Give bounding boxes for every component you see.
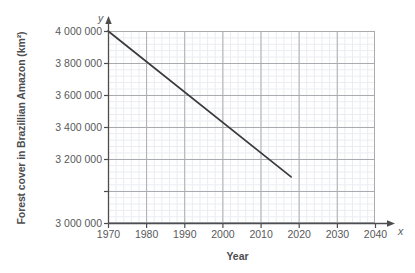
x-tick-labels: 1970 1980 1990 2000 2010 2020 2030 2040 [0,228,415,242]
y-axis-ticks [104,32,109,224]
x-tick-label: 2040 [354,228,398,240]
y-tick-label: 3 600 000 [36,90,102,100]
y-tick-label: 3 400 000 [36,122,102,132]
y-tick-label: 4 000 000 [36,26,102,36]
x-axis-letter: x [398,225,403,237]
chart-figure: Forest cover in Brazillian Amazon (km²) … [0,0,415,273]
x-axis [109,220,396,226]
y-tick-label: 3 200 000 [36,154,102,164]
y-tick-label: 3 000 000 [36,218,102,228]
y-tick-label: 3 800 000 [36,58,102,68]
y-axis-letter: y [98,12,103,24]
